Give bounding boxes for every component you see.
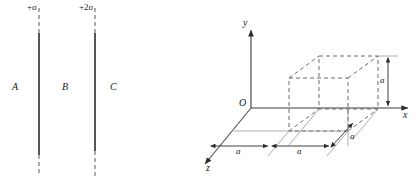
dimension-label-a-right: a: [297, 147, 302, 156]
right-figure-canvas: [0, 0, 418, 179]
projection-rail-2: [268, 131, 289, 156]
axis-label-x: x: [403, 110, 407, 120]
cube-edge-depth-top-right: [348, 56, 378, 78]
projection-rail-1: [210, 108, 251, 158]
figure-page: +σ +2σ A B C: [0, 0, 418, 179]
projection-rail-4: [352, 109, 378, 140]
cube-front-face: [289, 78, 348, 131]
dimension-label-a-left: a: [236, 147, 241, 156]
cube-edge-depth-bottom-left: [289, 109, 319, 131]
projection-rail-5: [289, 109, 319, 145]
dimension-label-a-height: a: [380, 76, 385, 85]
cube-edge-depth-bottom-right: [348, 109, 378, 131]
origin-label-O: O: [239, 98, 246, 108]
cube-back-face: [319, 56, 378, 109]
axis-label-y: y: [243, 18, 247, 28]
axis-label-z: z: [206, 163, 210, 173]
dimension-label-a-depth: a: [350, 132, 355, 141]
cube-edge-depth-top-left: [289, 56, 319, 78]
projection-rail-3: [327, 131, 348, 156]
